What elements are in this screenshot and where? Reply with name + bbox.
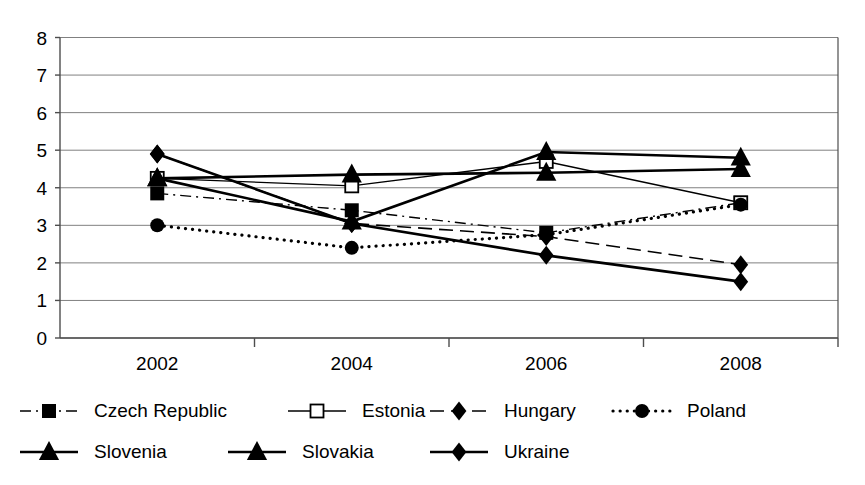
- x-tick-label: 2008: [720, 353, 762, 374]
- data-series-group: [147, 141, 751, 291]
- line-chart: 012345678 2002200420062008 Czech Republi…: [0, 0, 865, 485]
- x-tick-label: 2004: [331, 353, 374, 374]
- data-point-marker-filled-diamond: [452, 402, 467, 421]
- data-point-marker-filled-triangle: [39, 441, 59, 460]
- legend-label: Poland: [687, 400, 746, 421]
- legend-item-poland[interactable]: Poland: [613, 400, 746, 421]
- x-axis-tick-labels: 2002200420062008: [136, 353, 762, 374]
- legend-label: Slovakia: [302, 441, 374, 462]
- data-point-marker-filled-triangle: [731, 147, 751, 166]
- y-axis-tick-labels: 012345678: [36, 28, 47, 350]
- data-point-marker-filled-circle: [734, 198, 748, 212]
- legend-label: Hungary: [504, 400, 576, 421]
- y-tick-label: 6: [36, 103, 47, 124]
- data-point-marker-filled-circle: [345, 241, 359, 255]
- data-point-marker-filled-circle: [635, 404, 649, 418]
- legend-label: Slovenia: [94, 441, 167, 462]
- y-tick-label: 8: [36, 28, 47, 49]
- legend-item-estonia[interactable]: Estonia: [288, 400, 426, 421]
- y-tick-label: 4: [36, 178, 47, 199]
- chart-canvas: 012345678 2002200420062008 Czech Republi…: [0, 0, 865, 485]
- legend-item-hungary[interactable]: Hungary: [430, 400, 576, 421]
- series-poland: [150, 198, 748, 255]
- series-hungary: [150, 144, 748, 274]
- legend-item-ukraine[interactable]: Ukraine: [430, 441, 569, 462]
- data-point-marker-filled-triangle: [247, 441, 267, 460]
- legend-item-czech-republic[interactable]: Czech Republic: [20, 400, 227, 421]
- series-line: [157, 169, 741, 178]
- data-point-marker-filled-diamond: [150, 144, 165, 163]
- y-tick-label: 7: [36, 65, 47, 86]
- series-line: [157, 205, 741, 248]
- legend-item-slovenia[interactable]: Slovenia: [20, 441, 167, 462]
- data-point-marker-filled-square: [42, 404, 56, 418]
- series-czech-republic: [150, 186, 748, 239]
- gridlines-group: [55, 38, 838, 348]
- cropped-title-remnant: [0, 0, 865, 12]
- y-tick-label: 1: [36, 290, 47, 311]
- data-point-marker-filled-diamond: [452, 443, 467, 462]
- data-point-marker-filled-diamond: [733, 272, 748, 291]
- data-point-marker-filled-triangle: [342, 164, 362, 183]
- y-tick-label: 5: [36, 140, 47, 161]
- legend-label: Estonia: [362, 400, 426, 421]
- data-point-marker-filled-circle: [539, 228, 553, 242]
- x-tick-label: 2002: [136, 353, 178, 374]
- legend-item-slovakia[interactable]: Slovakia: [228, 441, 374, 462]
- data-point-marker-filled-diamond: [539, 246, 554, 265]
- y-tick-label: 3: [36, 215, 47, 236]
- y-tick-label: 2: [36, 253, 47, 274]
- legend-label: Czech Republic: [94, 400, 227, 421]
- x-tick-label: 2006: [525, 353, 567, 374]
- data-point-marker-filled-diamond: [733, 255, 748, 274]
- series-estonia: [151, 155, 748, 209]
- data-point-marker-open-square: [311, 405, 324, 418]
- series-line: [157, 152, 741, 221]
- data-point-marker-filled-square: [150, 186, 164, 200]
- y-tick-label: 0: [36, 328, 47, 349]
- data-point-marker-filled-circle: [150, 218, 164, 232]
- chart-legend: Czech RepublicEstoniaHungaryPolandSloven…: [20, 400, 746, 462]
- series-line: [157, 193, 741, 232]
- legend-label: Ukraine: [504, 441, 569, 462]
